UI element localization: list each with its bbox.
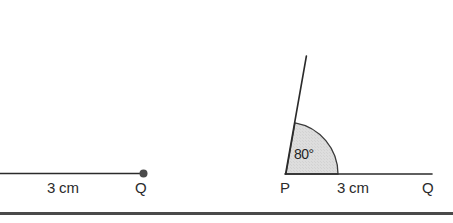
angle-measure-label: 80°	[294, 147, 314, 161]
vertex-label-p: P	[280, 180, 290, 195]
diagram-canvas: 3 cm Q 80° P 3 cm Q	[0, 0, 453, 223]
left-point-label-q: Q	[135, 180, 146, 195]
bottom-divider-rule	[0, 212, 453, 215]
right-length-label: 3 cm	[337, 180, 369, 195]
left-length-label: 3 cm	[47, 180, 79, 195]
right-point-label-q: Q	[422, 180, 433, 195]
left-figure-group	[0, 170, 148, 178]
left-endpoint-dot-q	[140, 170, 148, 178]
